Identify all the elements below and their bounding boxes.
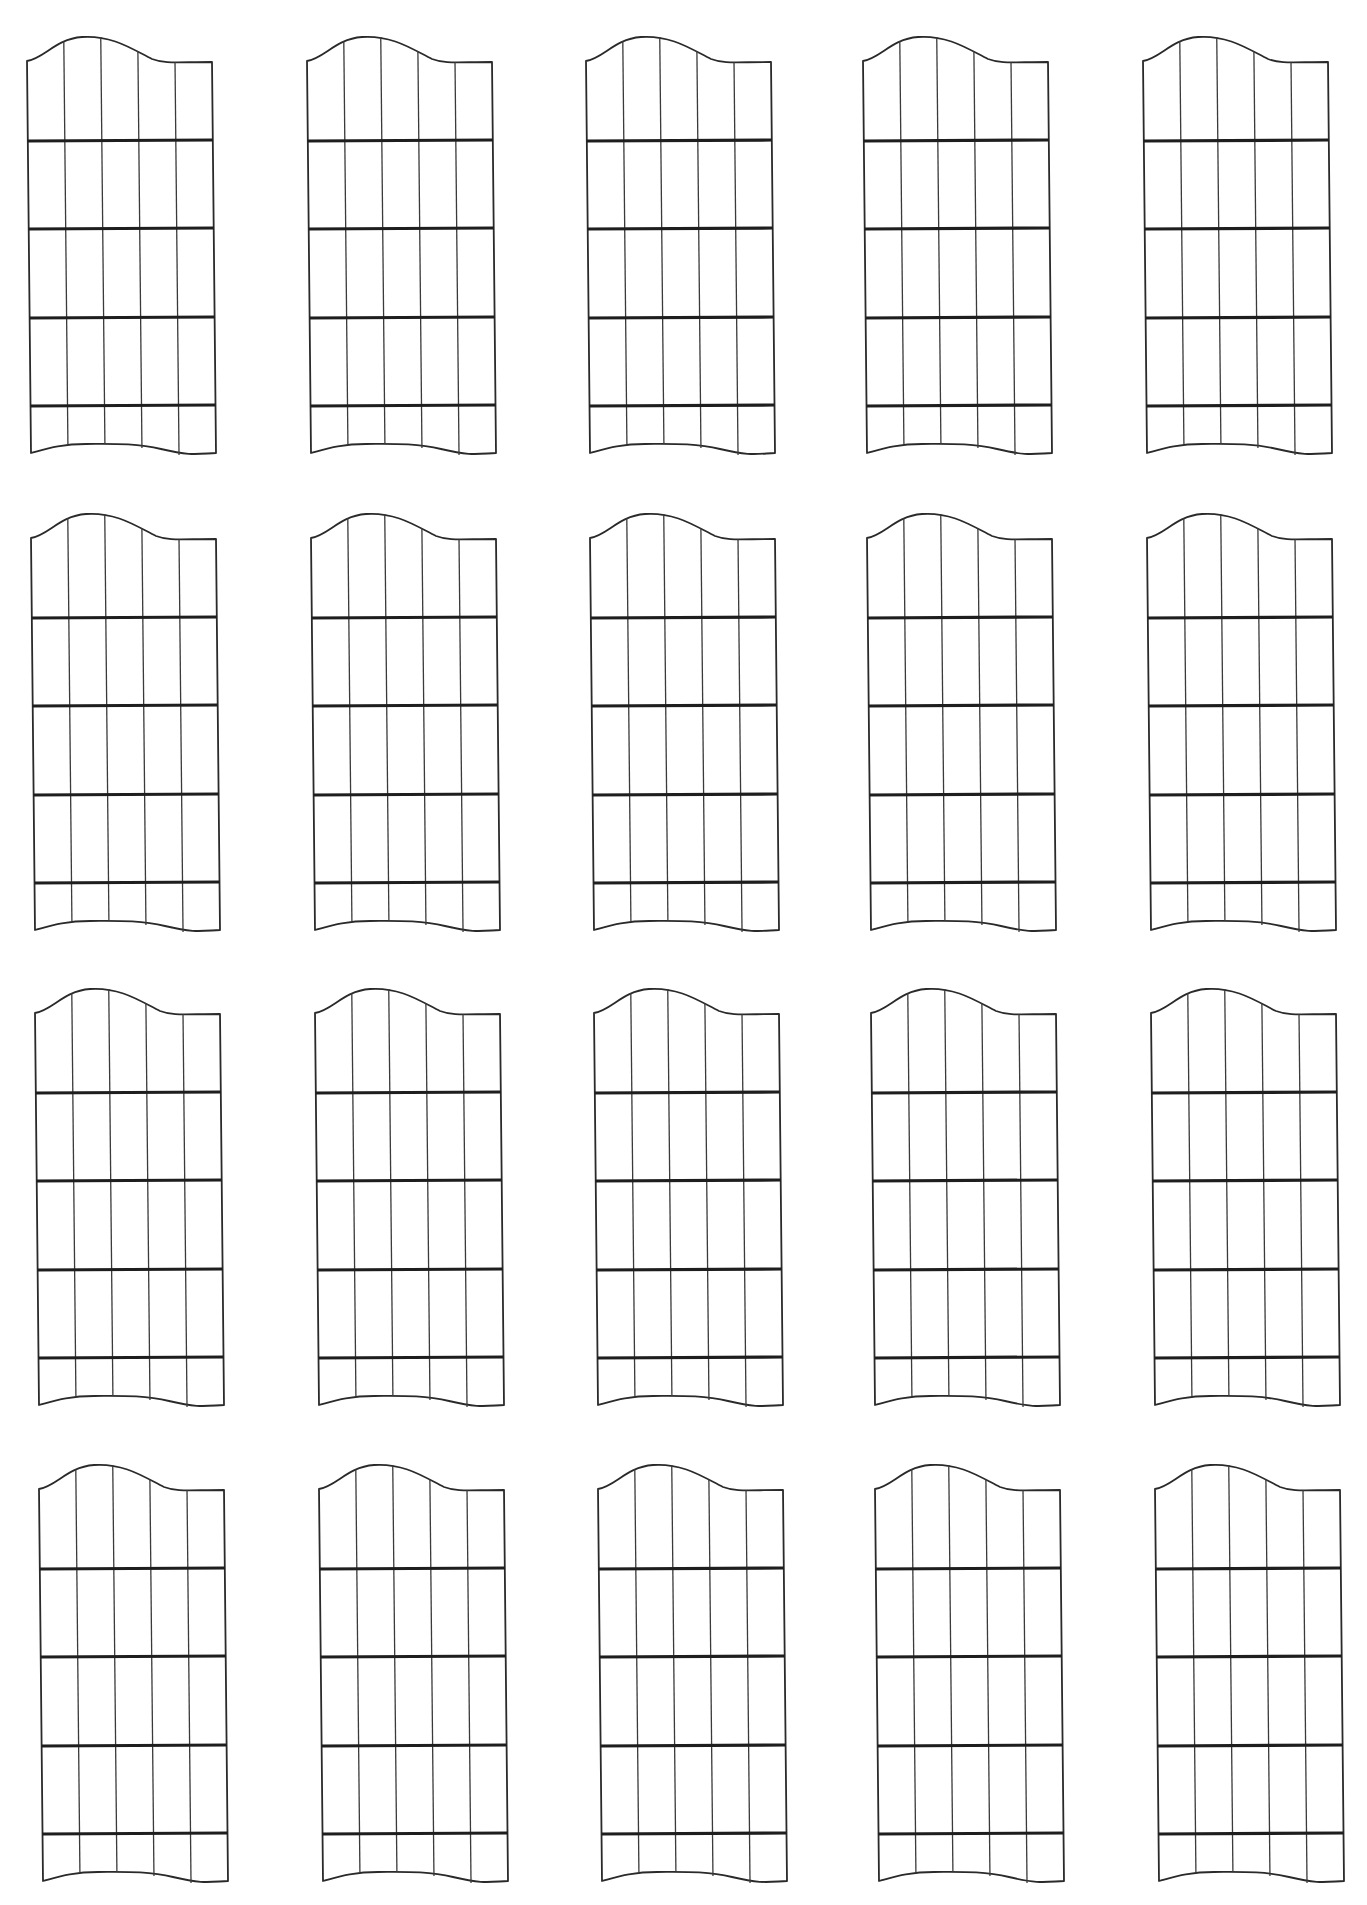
fret-line xyxy=(41,1656,226,1657)
string-line xyxy=(356,1469,360,1872)
fret-line xyxy=(597,1269,782,1270)
fret-line xyxy=(864,140,1049,141)
fretboard-outline xyxy=(863,37,1052,454)
fret-line xyxy=(320,1568,505,1569)
string-line xyxy=(64,41,68,444)
string-line xyxy=(986,1479,990,1876)
fret-line xyxy=(1156,1568,1341,1569)
fretboard-diagram xyxy=(319,1465,508,1883)
fretboard-outline xyxy=(598,1465,787,1882)
fret-line xyxy=(43,1833,228,1834)
fretboard-diagram xyxy=(39,1465,228,1883)
string-line xyxy=(1023,1490,1027,1883)
fretboard-diagram xyxy=(863,37,1052,455)
fret-line xyxy=(600,1656,785,1657)
fret-line xyxy=(872,1092,1057,1093)
fret-line xyxy=(1150,794,1335,795)
fretboard-diagram xyxy=(875,1465,1064,1883)
fret-line xyxy=(873,1180,1058,1181)
fret-line xyxy=(598,1357,783,1358)
string-line xyxy=(418,51,422,448)
fret-line xyxy=(39,1357,224,1358)
string-line xyxy=(142,528,146,925)
string-line xyxy=(467,1490,471,1883)
string-line xyxy=(430,1479,434,1876)
fret-line xyxy=(321,1656,506,1657)
fret-line xyxy=(310,317,495,318)
fret-line xyxy=(312,617,497,618)
fretboard-diagram xyxy=(35,989,224,1407)
string-line xyxy=(348,518,352,921)
fretboard-outline xyxy=(1155,1465,1344,1882)
fret-line xyxy=(878,1745,1063,1746)
fret-line xyxy=(31,405,216,406)
string-line xyxy=(746,1490,750,1883)
string-line xyxy=(344,41,348,444)
string-line xyxy=(426,1003,430,1400)
fret-line xyxy=(37,1180,222,1181)
fret-line xyxy=(316,1092,501,1093)
fret-line xyxy=(1148,617,1333,618)
fret-line xyxy=(317,1180,502,1181)
fretboard-diagram xyxy=(1147,514,1336,932)
string-line xyxy=(113,1465,117,1872)
fretboard-outline xyxy=(1147,514,1336,931)
fret-line xyxy=(1155,1357,1340,1358)
fret-line xyxy=(865,228,1050,229)
fret-line xyxy=(311,405,496,406)
string-line xyxy=(697,51,701,448)
fret-line xyxy=(599,1568,784,1569)
string-line xyxy=(72,993,76,1396)
fret-line xyxy=(34,794,219,795)
fret-line xyxy=(866,317,1051,318)
fretboard-diagram xyxy=(315,989,504,1407)
string-line xyxy=(459,539,463,932)
fret-line xyxy=(1149,705,1334,706)
fret-line xyxy=(42,1745,227,1746)
fret-line xyxy=(40,1568,225,1569)
fretboard-outline xyxy=(871,989,1060,1406)
fretboard-outline xyxy=(1143,37,1332,454)
string-line xyxy=(101,37,105,444)
fret-line xyxy=(593,794,778,795)
string-line xyxy=(138,51,142,448)
fret-line xyxy=(594,882,779,883)
fretboard-diagram xyxy=(1143,37,1332,455)
fret-line xyxy=(308,140,493,141)
fretboard-outline xyxy=(1151,989,1340,1406)
fret-line xyxy=(1145,228,1330,229)
fretboard-diagram xyxy=(307,37,496,455)
fret-line xyxy=(322,1745,507,1746)
string-line xyxy=(1229,1465,1233,1872)
string-line xyxy=(1299,1014,1303,1407)
string-line xyxy=(422,528,426,925)
string-line xyxy=(146,1003,150,1400)
fret-line xyxy=(1152,1092,1337,1093)
string-line xyxy=(668,989,672,1396)
fret-line xyxy=(592,705,777,706)
fret-line xyxy=(1154,1269,1339,1270)
string-line xyxy=(900,41,904,444)
string-line xyxy=(701,528,705,925)
fret-line xyxy=(1158,1745,1343,1746)
string-line xyxy=(463,1014,467,1407)
fret-line xyxy=(1147,405,1332,406)
string-line xyxy=(352,993,356,1396)
string-line xyxy=(1019,1014,1023,1407)
fret-line xyxy=(29,228,214,229)
fretboard-outline xyxy=(27,37,216,454)
fret-line xyxy=(870,794,1055,795)
fret-line xyxy=(879,1833,1064,1834)
fretboard-diagram xyxy=(1155,1465,1344,1883)
string-line xyxy=(1192,1469,1196,1872)
string-line xyxy=(672,1465,676,1872)
fret-line xyxy=(35,882,220,883)
fret-line xyxy=(314,794,499,795)
string-line xyxy=(187,1490,191,1883)
fret-line xyxy=(591,617,776,618)
string-line xyxy=(734,62,738,455)
string-line xyxy=(1225,989,1229,1396)
fretboard-outline xyxy=(875,1465,1064,1882)
string-line xyxy=(175,62,179,455)
fret-line xyxy=(309,228,494,229)
